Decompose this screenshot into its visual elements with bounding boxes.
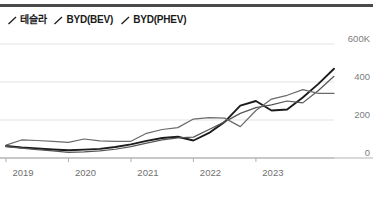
x-tick-label: 2020 (75, 168, 96, 178)
x-tick-label: 2021 (137, 168, 158, 178)
x-tick-label: 2023 (262, 168, 283, 178)
x-tick-label: 2022 (200, 168, 221, 178)
x-tick-label: 2019 (12, 168, 33, 178)
x-axis-labels: 20192020202120222023 (0, 0, 373, 199)
